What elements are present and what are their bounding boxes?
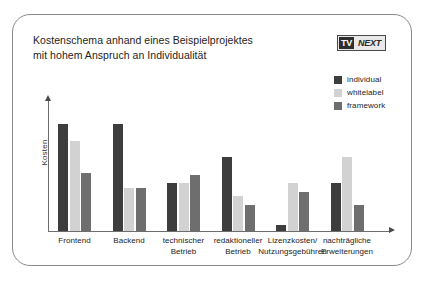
bar-lizenzkostennutzungsgebhren-framework bbox=[299, 192, 309, 231]
legend-label: whitelabel bbox=[347, 88, 384, 97]
bar-nachtrglicheerweiterungen-framework bbox=[354, 205, 364, 231]
plot-area bbox=[48, 100, 396, 232]
bar-lizenzkostennutzungsgebhren-whitelabel bbox=[288, 183, 298, 231]
bar-frontend-individual bbox=[58, 124, 68, 231]
chart-screenshot: Kostenschema anhand eines Beispielprojek… bbox=[0, 0, 432, 290]
chart-title-line-2: mit hohem Anspruch an Individualität bbox=[33, 48, 283, 63]
chart-title: Kostenschema anhand eines Beispielprojek… bbox=[33, 33, 283, 63]
bar-redaktionellerbetrieb-framework bbox=[245, 205, 255, 231]
bar-lizenzkostennutzungsgebhren-individual bbox=[276, 225, 286, 232]
legend-item-whitelabel[interactable]: whitelabel bbox=[334, 87, 385, 98]
x-axis-label-line: Erweiterungen bbox=[307, 247, 387, 258]
x-axis-label-line: nachträgliche bbox=[307, 236, 387, 247]
bar-nachtrglicheerweiterungen-individual bbox=[331, 183, 341, 231]
bar-technischerbetrieb-whitelabel bbox=[179, 183, 189, 231]
bar-frontend-whitelabel bbox=[70, 141, 80, 231]
logo-tv-mark: TV bbox=[339, 37, 354, 49]
x-axis-label-6: nachträglicheErweiterungen bbox=[307, 236, 387, 257]
bar-technischerbetrieb-individual bbox=[167, 183, 177, 231]
bar-backend-framework bbox=[136, 188, 146, 231]
logo-next-word: NEXT bbox=[354, 37, 384, 49]
bar-technischerbetrieb-framework bbox=[190, 175, 200, 231]
bar-backend-individual bbox=[113, 124, 123, 231]
bar-redaktionellerbetrieb-whitelabel bbox=[233, 196, 243, 231]
tv-next-logo: TV NEXT bbox=[337, 35, 386, 51]
bar-nachtrglicheerweiterungen-whitelabel bbox=[342, 157, 352, 231]
legend-item-individual[interactable]: individual bbox=[334, 74, 385, 85]
chart-title-line-1: Kostenschema anhand eines Beispielprojek… bbox=[33, 33, 283, 48]
x-axis-category-labels: FrontendBackendtechnischerBetriebredakti… bbox=[48, 236, 396, 266]
legend-label: individual bbox=[347, 75, 381, 84]
bar-backend-whitelabel bbox=[124, 188, 134, 231]
bar-frontend-framework bbox=[81, 173, 91, 232]
bar-redaktionellerbetrieb-individual bbox=[222, 157, 232, 231]
legend-swatch-icon bbox=[334, 76, 342, 84]
legend-swatch-icon bbox=[334, 89, 342, 97]
bars-layer bbox=[48, 100, 396, 232]
